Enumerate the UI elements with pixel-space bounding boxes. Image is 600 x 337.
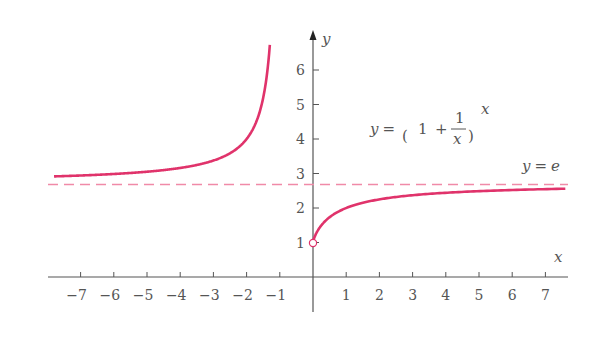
formula-rparen: ) [468, 127, 474, 145]
x-tick-label: −4 [166, 287, 187, 303]
x-tick-label: 1 [342, 287, 351, 303]
y-tick-label: 6 [296, 62, 305, 78]
x-tick-label: −3 [199, 287, 220, 303]
x-tick-label: −6 [99, 287, 120, 303]
formula-denominator: x [453, 130, 462, 148]
y-tick-label: 5 [296, 97, 305, 113]
y-tick-label: 2 [296, 200, 305, 216]
y-ticks: 123456 [296, 62, 319, 251]
curve-right-branch [313, 189, 565, 243]
formula-plus: + [435, 120, 448, 138]
y-tick-label: 3 [296, 166, 305, 182]
x-tick-label: 7 [541, 287, 550, 303]
y-axis-label: y [321, 30, 331, 48]
e-line-label: y=e [521, 157, 560, 175]
formula-lhs: y= [369, 120, 395, 138]
x-axis-label: x [554, 248, 563, 266]
x-tick-label: 5 [475, 287, 484, 303]
x-tick-label: −1 [265, 287, 286, 303]
curve-left-branch [54, 45, 270, 177]
formula-one: 1 [418, 120, 428, 138]
x-tick-label: −5 [133, 287, 154, 303]
chart-canvas: −7−6−5−4−3−2−11234567 123456 y x y= ( 1 … [0, 0, 600, 337]
x-tick-label: 2 [375, 287, 384, 303]
open-point-marker [309, 239, 316, 246]
y-tick-label: 4 [296, 131, 305, 147]
y-tick-label: 1 [296, 235, 305, 251]
axes [48, 30, 568, 312]
formula-numerator: 1 [455, 109, 465, 127]
x-tick-label: −7 [66, 287, 87, 303]
y-axis-arrow-icon [310, 30, 317, 40]
formula-lparen: ( [402, 127, 408, 145]
formula-annotation: y= ( 1 + 1 x ) x [369, 100, 490, 148]
x-tick-label: 4 [441, 287, 450, 303]
x-tick-label: −2 [232, 287, 253, 303]
formula-exponent: x [481, 100, 490, 118]
x-tick-label: 6 [508, 287, 517, 303]
x-tick-label: 3 [408, 287, 417, 303]
